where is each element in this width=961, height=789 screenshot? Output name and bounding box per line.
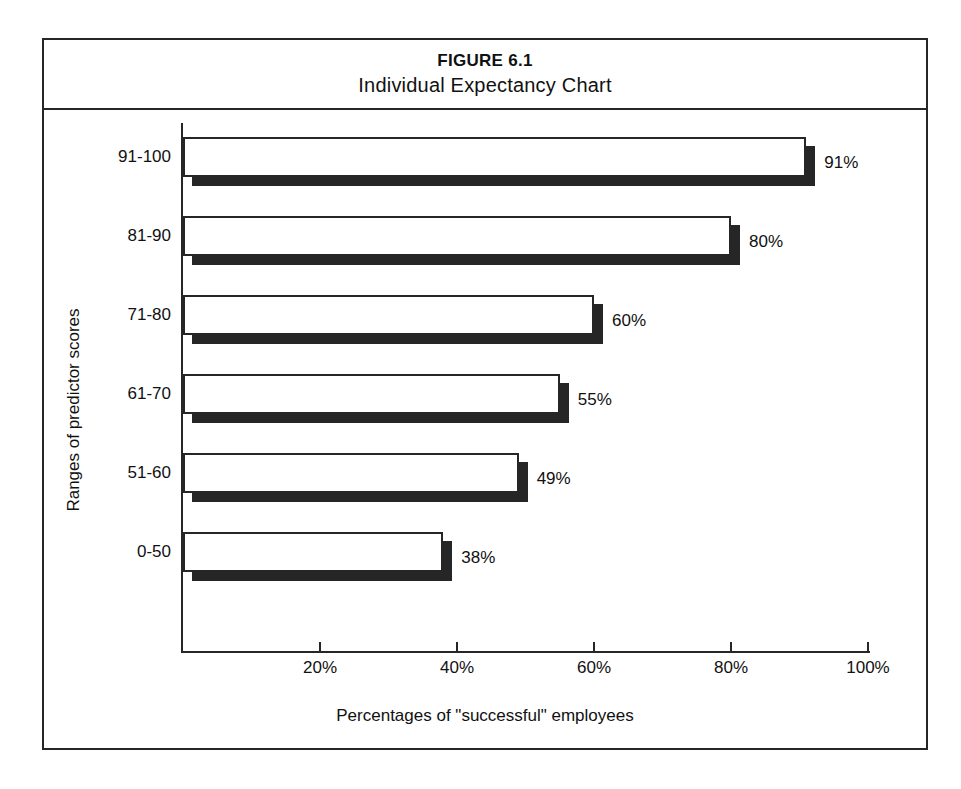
bar-value-label: 80% <box>749 225 783 259</box>
bar-value-label: 91% <box>824 146 858 180</box>
x-axis-title: Percentages of "successful" employees <box>44 706 926 726</box>
y-axis-category-label: 0-50 <box>0 541 171 563</box>
bar-value-label: 55% <box>578 383 612 417</box>
bar-value-label: 49% <box>537 462 571 496</box>
x-axis-tick <box>867 642 869 653</box>
figure-number: FIGURE 6.1 <box>437 51 533 71</box>
bar <box>183 137 818 186</box>
bar <box>183 295 606 344</box>
y-axis-category-label: 81-90 <box>0 225 171 247</box>
bar-face <box>183 137 806 177</box>
plot-area: Ranges of predictor scores 91-10081-9071… <box>44 110 926 748</box>
bar-face <box>183 453 519 493</box>
figure-header: FIGURE 6.1 Individual Expectancy Chart <box>44 40 926 110</box>
x-axis-tick-label: 80% <box>696 658 766 678</box>
bar-face <box>183 374 560 414</box>
bar <box>183 374 572 423</box>
bar <box>183 216 743 265</box>
bar <box>183 532 455 581</box>
y-axis-category-label: 51-60 <box>0 462 171 484</box>
x-axis-tick-label: 20% <box>285 658 355 678</box>
x-axis-tick <box>456 642 458 653</box>
x-axis-tick <box>730 642 732 653</box>
x-axis-tick-label: 60% <box>559 658 629 678</box>
y-axis-category-label: 91-100 <box>0 146 171 168</box>
y-axis-category-label: 61-70 <box>0 383 171 405</box>
x-axis-tick-label: 40% <box>422 658 492 678</box>
bar-face <box>183 216 731 256</box>
bar-value-label: 38% <box>461 541 495 575</box>
x-axis-tick <box>319 642 321 653</box>
figure-title: Individual Expectancy Chart <box>358 73 611 97</box>
x-axis-tick <box>593 642 595 653</box>
x-axis-line <box>181 651 870 653</box>
bar-face <box>183 295 594 335</box>
figure-root: FIGURE 6.1 Individual Expectancy Chart R… <box>0 0 961 789</box>
figure-frame: FIGURE 6.1 Individual Expectancy Chart R… <box>42 38 928 750</box>
x-axis-tick-label: 100% <box>833 658 903 678</box>
bar-face <box>183 532 443 572</box>
bar-value-label: 60% <box>612 304 646 338</box>
bar <box>183 453 531 502</box>
y-axis-category-label: 71-80 <box>0 304 171 326</box>
